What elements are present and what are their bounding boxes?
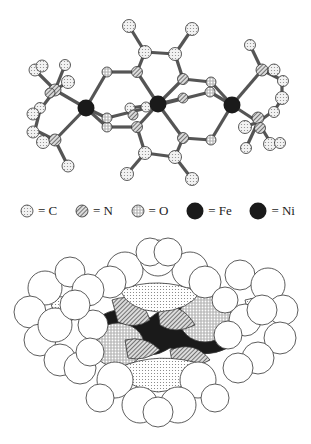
oxygen-atom-icon (131, 204, 145, 218)
molecular-structure-figure (0, 0, 311, 444)
nickel-atom-icon (249, 202, 267, 220)
nitrogen-atom-icon (75, 204, 89, 218)
legend-label-iron: = Fe (208, 203, 232, 219)
legend-item-nickel: = Ni (249, 202, 295, 220)
atom-legend: = C = N = O = Fe = Ni (20, 202, 295, 220)
legend-label-nickel: = Ni (271, 203, 295, 219)
metal-atom-left (78, 100, 95, 117)
legend-label-oxygen: = O (149, 203, 169, 219)
space-filling-model (14, 238, 298, 427)
legend-item-nitrogen: = N (75, 203, 113, 219)
metal-atom-center (150, 96, 167, 113)
legend-label-carbon: = C (38, 203, 57, 219)
iron-atom-icon (186, 202, 204, 220)
legend-item-iron: = Fe (186, 202, 232, 220)
legend-label-nitrogen: = N (93, 203, 113, 219)
carbon-atom-icon (20, 204, 34, 218)
legend-item-carbon: = C (20, 203, 57, 219)
ball-and-stick-model (27, 20, 289, 186)
legend-item-oxygen: = O (131, 203, 169, 219)
metal-atom-right (224, 97, 241, 114)
